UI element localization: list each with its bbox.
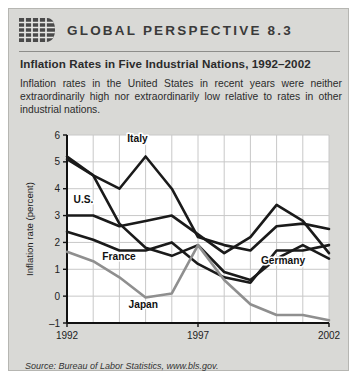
chart-canvas: –10123456199219972002Inflation rate (per… [19,127,341,359]
x-tick-label: 1997 [187,330,210,341]
y-tick-label: 0 [54,291,60,302]
y-tick-label: 6 [54,130,60,141]
figure-kicker: GLOBAL PERSPECTIVE 8.3 [67,23,293,38]
svg-text:Japan: Japan [129,299,158,310]
y-axis-title: Inflation rate (percent) [24,182,35,276]
series-label-italy: ItalyItaly [127,133,148,144]
svg-text:U.S.: U.S. [74,194,94,205]
svg-text:Italy: Italy [127,133,148,144]
figure-header: GLOBAL PERSPECTIVE 8.3 [9,9,348,51]
source-note: Source: Bureau of Labor Statistics, www.… [25,361,218,371]
y-tick-label: 4 [54,183,60,194]
series-label-france: FranceFrance [102,251,136,262]
svg-text:France: France [102,251,136,262]
figure-panel: GLOBAL PERSPECTIVE 8.3 Inflation Rates i… [8,8,349,371]
x-tick-label: 2002 [318,330,341,341]
line-chart: –10123456199219972002Inflation rate (per… [19,127,341,359]
series-label-us: U.S.U.S. [74,194,94,205]
global-perspective-figure: GLOBAL PERSPECTIVE 8.3 Inflation Rates i… [0,0,357,389]
svg-text:Germany: Germany [261,255,306,266]
y-tick-label: 2 [54,237,60,248]
series-label-germany: GermanyGermany [261,255,306,266]
figure-subtitle: Inflation Rates in Five Industrial Natio… [20,57,345,70]
y-tick-label: 5 [54,156,60,167]
series-label-japan: JapanJapan [129,299,158,310]
figure-blurb: Inflation rates in the United States in … [20,77,342,117]
header-divider [19,51,340,52]
x-tick-label: 1992 [56,330,79,341]
y-tick-label: –1 [49,318,61,329]
y-tick-label: 3 [54,210,60,221]
globe-grid-icon [17,16,57,44]
y-tick-label: 1 [54,264,60,275]
